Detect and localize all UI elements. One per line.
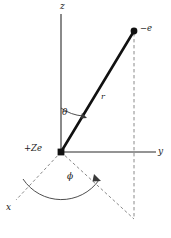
nucleus-point-marker — [58, 149, 65, 156]
phi-angle-label: ϕ — [67, 172, 73, 181]
azimuthal-projection-line — [61, 152, 134, 219]
nucleus-charge-label: +Ze — [24, 144, 42, 153]
atom-coordinate-diagram — [0, 0, 171, 238]
y-axis-label: y — [158, 147, 163, 156]
radius-vector — [61, 31, 134, 152]
x-axis — [16, 152, 61, 200]
electron-charge-label: −e — [140, 24, 152, 33]
z-axis-label: z — [60, 2, 65, 11]
x-axis-label: x — [6, 203, 11, 212]
theta-angle-label: θ — [62, 108, 67, 117]
radius-label: r — [101, 93, 105, 101]
phi-arc — [23, 179, 99, 200]
electron-point-marker — [131, 28, 138, 35]
phi-arc-arrowhead — [93, 174, 102, 182]
